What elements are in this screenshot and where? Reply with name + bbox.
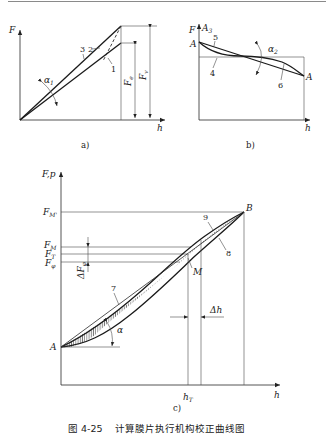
panel-b-x-label: h: [305, 123, 311, 133]
panel-a-line-2: [103, 26, 121, 61]
panel-a-angle-label: α1: [44, 75, 54, 86]
panel-c-caption: c): [173, 403, 181, 413]
panel-b-angle-arc: [256, 45, 262, 75]
panel-c-point-m: M: [192, 267, 203, 277]
panel-c-ht-label: hT: [183, 392, 194, 403]
panel-c-point-b: B: [245, 203, 253, 213]
panel-a-label-3: 3: [80, 45, 85, 54]
panel-a-line-3: [20, 26, 121, 120]
calibration-figure: F h Fe Fv 3 2 1 α1 a) F A3 h: [0, 0, 327, 436]
panel-c-angle-label: α: [117, 325, 123, 335]
panel-c-label-7: 7: [111, 284, 116, 293]
panel-b-label-5: 5: [213, 33, 218, 42]
panel-c-point-a: A: [49, 342, 57, 352]
panel-c-delta-f-label: ΔFφ: [76, 261, 88, 280]
panel-a-fv-label: Fv: [138, 70, 149, 81]
panel-c-y-label: F,p: [41, 169, 56, 179]
panel-b-point-a-right: A: [305, 72, 313, 82]
panel-a-caption: a): [81, 140, 89, 150]
figure-caption: 图 4-25计算膜片执行机构校正曲线图: [68, 423, 245, 434]
panel-b-angle-label: α2: [268, 44, 278, 55]
panel-c-tick-fm-prime: FM': [42, 207, 57, 218]
panel-b-label-6: 6: [278, 81, 283, 90]
panel-c-label-8: 8: [226, 249, 231, 258]
panel-a-label-1: 1: [111, 65, 116, 74]
panel-c-label-9: 9: [203, 213, 208, 222]
panel-b-caption: b): [246, 140, 255, 150]
panel-b-y2-label: A3: [201, 23, 213, 34]
panel-b-label-4: 4: [210, 69, 215, 78]
panel-b-point-a-left: A: [189, 39, 197, 49]
panel-c-angle-arc: [107, 322, 112, 346]
panel-a: F h Fe Fv 3 2 1 α1 a): [8, 25, 165, 150]
panel-c-delta-h-label: Δh: [209, 305, 222, 315]
panel-a-label-2: 2: [88, 45, 93, 54]
panel-a-y-label: F: [8, 25, 16, 35]
panel-c-x-label: h: [274, 390, 280, 400]
panel-a-fe-label: Fe: [123, 76, 134, 87]
panel-c: F,p h FM' FM FT Fφ ΔFφ Δh: [41, 169, 280, 413]
panel-c-line-7: [61, 212, 244, 347]
panel-a-x-label: h: [157, 123, 163, 133]
panel-b: F A3 h A A 5 4 6 α2 b): [188, 23, 313, 150]
panel-b-y-label: F: [188, 25, 196, 35]
